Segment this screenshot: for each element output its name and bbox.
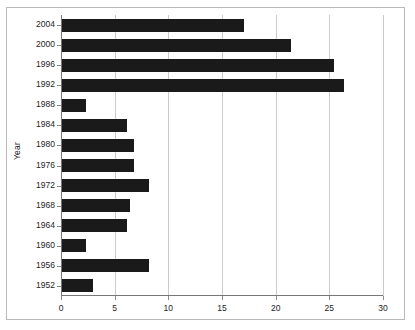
bar-1996 (62, 59, 334, 72)
bar-row: 1968 (61, 196, 383, 216)
bar-1988 (62, 99, 86, 112)
x-tick-label-15: 15 (207, 303, 237, 313)
y-axis-line (61, 15, 62, 296)
bar-row: 1996 (61, 55, 383, 75)
bar-row: 1972 (61, 176, 383, 196)
gridline-30 (383, 15, 384, 296)
y-tick-label-2000: 2000 (15, 39, 55, 49)
x-tick-label-5: 5 (100, 303, 130, 313)
x-tick-label-10: 10 (153, 303, 183, 313)
x-tick-label-30: 30 (368, 303, 398, 313)
x-tick-mark-20 (276, 296, 277, 300)
y-axis-title: Year (12, 121, 22, 181)
bar-row: 1952 (61, 276, 383, 296)
x-tick-mark-30 (383, 296, 384, 300)
plot-area: 2004200019961992198819841980197619721968… (61, 15, 383, 296)
y-tick-label-1984: 1984 (15, 119, 55, 129)
bar-2000 (62, 39, 291, 52)
x-tick-label-0: 0 (46, 303, 76, 313)
bar-row: 1984 (61, 115, 383, 135)
bar-1964 (62, 219, 127, 232)
bar-row: 1976 (61, 156, 383, 176)
y-tick-label-1972: 1972 (15, 180, 55, 190)
bar-row: 1964 (61, 216, 383, 236)
bar-row: 1992 (61, 75, 383, 95)
y-tick-label-1964: 1964 (15, 220, 55, 230)
x-tick-label-20: 20 (261, 303, 291, 313)
bar-1968 (62, 199, 130, 212)
bar-1972 (62, 179, 149, 192)
x-tick-mark-0 (61, 296, 62, 300)
x-tick-label-25: 25 (314, 303, 344, 313)
x-tick-mark-10 (168, 296, 169, 300)
y-tick-label-1992: 1992 (15, 79, 55, 89)
bar-1992 (62, 79, 344, 92)
x-tick-mark-25 (329, 296, 330, 300)
bar-1952 (62, 279, 93, 292)
x-tick-mark-15 (222, 296, 223, 300)
y-tick-label-1968: 1968 (15, 200, 55, 210)
y-tick-label-2004: 2004 (15, 19, 55, 29)
bar-1976 (62, 159, 134, 172)
y-tick-label-1988: 1988 (15, 99, 55, 109)
bar-1984 (62, 119, 127, 132)
x-tick-mark-5 (115, 296, 116, 300)
bar-2004 (62, 19, 244, 32)
bar-row: 2004 (61, 15, 383, 35)
y-tick-label-1960: 1960 (15, 240, 55, 250)
bar-row: 1956 (61, 256, 383, 276)
y-tick-label-1952: 1952 (15, 280, 55, 290)
y-tick-label-1980: 1980 (15, 139, 55, 149)
y-tick-label-1996: 1996 (15, 59, 55, 69)
bar-row: 2000 (61, 35, 383, 55)
y-tick-label-1956: 1956 (15, 260, 55, 270)
y-tick-label-1976: 1976 (15, 160, 55, 170)
bar-chart-figure: Year 20042000199619921988198419801976197… (0, 0, 415, 330)
bar-1960 (62, 239, 86, 252)
bar-1980 (62, 139, 134, 152)
bar-row: 1980 (61, 135, 383, 155)
bar-1956 (62, 259, 149, 272)
bar-row: 1988 (61, 95, 383, 115)
bar-row: 1960 (61, 236, 383, 256)
